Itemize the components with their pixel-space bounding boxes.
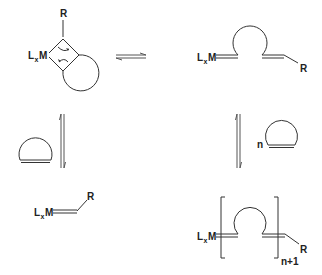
polymer-metal-l: L	[197, 231, 203, 242]
polymer-metal-sub: x	[204, 237, 208, 244]
polymer-r-label: R	[300, 244, 308, 255]
cyclic-olefin	[19, 138, 52, 163]
polymer-repeat-subscript: n+1	[281, 256, 299, 267]
carbene-metal-m: M	[45, 207, 53, 218]
carbene-metal-l: L	[34, 207, 40, 218]
ring-opened-alkylidene: L x M R	[197, 26, 308, 74]
metallacycle-metal-sub: x	[35, 56, 39, 63]
monomer-coefficient: n	[257, 139, 263, 150]
metallacycle-metal-l: L	[28, 50, 34, 61]
ring-opened-r-label: R	[300, 63, 308, 74]
equilibrium-arrow-horizontal	[116, 53, 146, 60]
ring-opened-metal-l: L	[197, 52, 203, 63]
metallacycle-metal-m: M	[39, 50, 47, 61]
ring-opened-metal-sub: x	[204, 58, 208, 65]
metal-carbene: L x M R	[34, 191, 95, 220]
polymer-chain: L x M R n+1	[197, 197, 308, 267]
monomer-n: n	[257, 120, 298, 150]
polymer-metal-m: M	[208, 231, 216, 242]
metallacyclobutane: R L x M	[28, 8, 99, 91]
carbene-r-label: R	[87, 191, 95, 202]
carbene-metal-sub: x	[41, 213, 45, 220]
romp-mechanism-diagram: R L x M L x M R	[0, 0, 322, 275]
ring-opened-metal-m: M	[208, 52, 216, 63]
equilibrium-arrow-right-vertical	[236, 114, 242, 168]
metallacycle-r-label: R	[60, 8, 68, 19]
equilibrium-arrow-left-vertical	[60, 114, 66, 168]
